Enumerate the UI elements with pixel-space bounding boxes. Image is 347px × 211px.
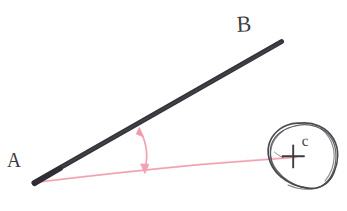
angle-arc-arrowhead-upper <box>136 127 143 136</box>
vertex-label-a: A <box>7 148 21 173</box>
plus-point-marker <box>283 145 305 167</box>
diagram-canvas: A B c <box>0 0 347 211</box>
angle-arc-group <box>136 127 149 173</box>
point-label-c: c <box>301 133 309 150</box>
geometry-figure <box>0 0 347 211</box>
ray-label-b: B <box>236 11 252 38</box>
